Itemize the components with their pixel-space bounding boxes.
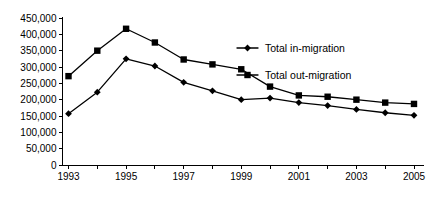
data-point-marker-square (180, 56, 186, 62)
legend-item-square: Total out-migration (237, 69, 352, 81)
y-axis-tick-labels: 050,000100,000150,000200,000250,000300,0… (20, 13, 57, 171)
x-axis-tick-labels: 1993199519971999200120032005 (57, 171, 425, 182)
migration-line-chart: 050,000100,000150,000200,000250,000300,0… (0, 0, 427, 216)
x-tick-label: 2005 (403, 171, 426, 182)
y-tick-label: 150,000 (20, 111, 57, 122)
data-point-marker-square (209, 61, 215, 67)
data-point-marker-square (324, 94, 330, 100)
y-tick-label: 100,000 (20, 127, 57, 138)
data-point-marker-square (152, 39, 158, 45)
data-point-marker-square (244, 72, 250, 78)
y-axis-tick-marks (59, 18, 63, 165)
data-point-marker-square (123, 26, 129, 32)
data-point-marker-diamond (238, 96, 245, 103)
data-point-marker-diamond (151, 63, 158, 70)
data-point-marker-diamond (411, 112, 418, 119)
x-tick-label: 1993 (57, 171, 80, 182)
y-tick-label: 400,000 (20, 29, 57, 40)
x-tick-label: 1999 (230, 171, 253, 182)
data-point-marker-square (267, 83, 273, 89)
data-point-marker-diamond (267, 95, 274, 102)
data-point-marker-diamond (382, 109, 389, 116)
data-point-marker-square (382, 99, 388, 105)
x-tick-label: 2001 (288, 171, 311, 182)
data-point-marker-diamond (353, 106, 360, 113)
x-axis-tick-marks (69, 165, 415, 169)
y-tick-label: 350,000 (20, 45, 57, 56)
data-point-marker-square (65, 73, 71, 79)
data-point-marker-square (411, 101, 417, 107)
data-point-marker-square (296, 92, 302, 98)
legend-item-diamond: Total in-migration (237, 42, 345, 54)
y-tick-label: 200,000 (20, 94, 57, 105)
y-tick-label: 50,000 (26, 143, 57, 154)
x-tick-label: 1995 (115, 171, 138, 182)
data-point-marker-diamond (180, 79, 187, 86)
x-tick-label: 2003 (345, 171, 368, 182)
data-point-marker-square (353, 96, 359, 102)
data-point-marker-diamond (209, 87, 216, 94)
data-series-group (65, 26, 417, 119)
series-square (65, 26, 417, 108)
data-point-marker-diamond (244, 45, 251, 52)
x-tick-label: 1997 (173, 171, 196, 182)
data-point-marker-square (94, 47, 100, 53)
y-tick-label: 0 (51, 160, 57, 171)
legend-label: Total in-migration (265, 42, 345, 54)
data-point-marker-diamond (295, 99, 302, 106)
data-point-marker-square (238, 66, 244, 72)
chart-canvas: 050,000100,000150,000200,000250,000300,0… (0, 0, 427, 216)
series-diamond (65, 55, 417, 118)
y-tick-label: 250,000 (20, 78, 57, 89)
chart-legend: Total in-migrationTotal out-migration (237, 42, 352, 81)
y-tick-label: 450,000 (20, 13, 57, 24)
y-tick-label: 300,000 (20, 62, 57, 73)
legend-label: Total out-migration (265, 69, 352, 81)
data-point-marker-diamond (324, 102, 331, 109)
